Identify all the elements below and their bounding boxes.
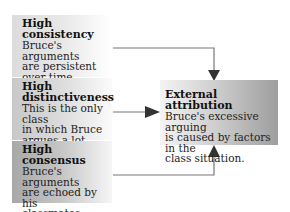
effect-text: class situation. (165, 153, 278, 164)
cause-text: Bruce's arguments (22, 40, 112, 61)
effect-text: is caused by factors in the (165, 132, 278, 153)
cause-text: This is the only class (22, 103, 112, 124)
cause-text: in which Bruce (22, 124, 112, 135)
cause-text: Bruce's arguments (22, 166, 112, 187)
effect-text: Bruce's excessive arguing (165, 111, 278, 132)
cause-box-distinctiveness: High distinctiveness This is the only cl… (12, 78, 112, 140)
arrowhead-right-icon (145, 106, 160, 118)
cause-text: classmates. (22, 208, 112, 212)
cause-text: are echoed by his (22, 187, 112, 208)
cause-box-consensus: High consensus Bruce's arguments are ech… (12, 141, 112, 203)
cause-box-consistency: High consistency Bruce's arguments are p… (12, 15, 112, 77)
connector-consistency (113, 48, 214, 72)
effect-title: External attribution (165, 89, 278, 111)
effect-box-external-attribution: External attribution Bruce's excessive a… (160, 80, 278, 145)
cause-text: are persistent (22, 61, 112, 72)
